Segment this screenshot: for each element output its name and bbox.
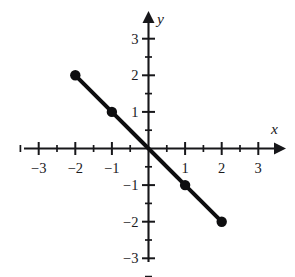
y-tick-label: −2: [123, 214, 139, 229]
data-point: [217, 217, 227, 227]
data-point: [180, 180, 190, 190]
y-tick-label: 3: [131, 31, 138, 46]
x-axis-label: x: [271, 121, 278, 137]
data-point: [107, 107, 117, 117]
graph-canvas: [0, 0, 295, 277]
x-tick-label: −2: [67, 161, 83, 176]
y-axis-arrowhead: [143, 11, 155, 23]
y-tick-label: 2: [131, 68, 138, 83]
axes-group: [24, 11, 286, 262]
x-tick-label: 2: [218, 161, 225, 176]
x-tick-label: 1: [181, 161, 188, 176]
y-tick-label: −3: [123, 251, 139, 266]
data-point: [70, 70, 80, 80]
x-tick-label: −1: [104, 161, 120, 176]
y-axis-label: y: [157, 11, 164, 27]
coordinate-plane-figure: −3−2−1123321−1−2−3 x y: [0, 0, 295, 277]
y-tick-label: −1: [123, 178, 139, 193]
x-tick-label: −3: [31, 161, 47, 176]
x-tick-label: 3: [255, 161, 262, 176]
y-tick-label: 1: [131, 105, 138, 120]
